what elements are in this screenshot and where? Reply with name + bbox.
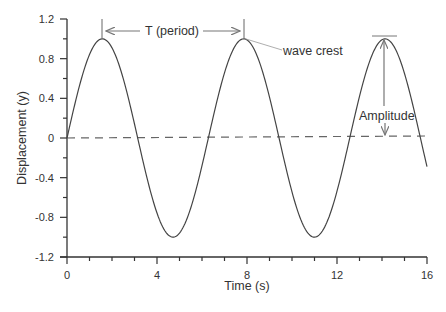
amplitude-label: Amplitude bbox=[359, 109, 415, 123]
equilibrium-line bbox=[67, 136, 427, 138]
y-ticks bbox=[60, 19, 67, 257]
crest-annotation: wave crest bbox=[246, 39, 343, 58]
y-tick-labels: 1.20.80.40-0.4-0.8-1.2 bbox=[35, 13, 54, 263]
y-tick-label: 0 bbox=[48, 132, 54, 144]
y-tick-label: -0.8 bbox=[35, 211, 54, 223]
y-axis-label: Displacement (y) bbox=[15, 91, 29, 185]
x-tick-label: 12 bbox=[331, 269, 343, 281]
sine-curve bbox=[67, 39, 427, 237]
crest-label: wave crest bbox=[282, 44, 343, 58]
x-tick-label: 4 bbox=[154, 269, 160, 281]
y-tick-label: 1.2 bbox=[39, 13, 54, 25]
y-tick-label: 0.8 bbox=[39, 53, 54, 65]
y-tick-label: -0.4 bbox=[35, 172, 54, 184]
sine-wave-chart: 1.20.80.40-0.4-0.8-1.2 0481216 Time (s) … bbox=[0, 0, 446, 312]
x-ticks bbox=[67, 257, 427, 264]
period-label: T (period) bbox=[145, 24, 199, 38]
x-tick-label: 0 bbox=[64, 269, 70, 281]
period-annotation: T (period) bbox=[102, 19, 244, 38]
amplitude-annotation: Amplitude bbox=[359, 36, 415, 135]
x-axis-label: Time (s) bbox=[224, 279, 269, 293]
y-tick-label: -1.2 bbox=[35, 251, 54, 263]
x-tick-label: 16 bbox=[421, 269, 433, 281]
y-tick-label: 0.4 bbox=[39, 92, 54, 104]
